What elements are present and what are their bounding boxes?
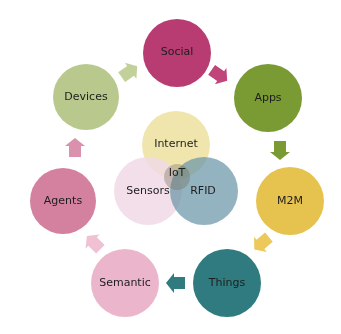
arrow-agents-to-devices-icon [65, 138, 85, 157]
arrow-social-to-apps-icon [206, 62, 233, 89]
iot-diagram: Internet Sensors RFID IoT Social Apps M2… [0, 0, 341, 334]
agents-label: Agents [44, 194, 83, 207]
social-label: Social [161, 45, 194, 58]
semantic-label: Semantic [99, 276, 151, 289]
arrow-m2m-to-things-icon [248, 230, 275, 258]
iot-label: IoT [169, 166, 186, 179]
m2m-label: M2M [277, 194, 303, 207]
internet-label: Internet [154, 137, 198, 150]
arrow-things-to-semantic-icon [166, 273, 185, 293]
things-label: Things [208, 276, 246, 289]
rfid-label: RFID [190, 184, 216, 197]
arrow-devices-to-social-icon [116, 58, 143, 85]
arrow-apps-to-m2m-icon [270, 141, 290, 160]
sensors-label: Sensors [126, 184, 170, 197]
devices-label: Devices [64, 90, 108, 103]
apps-label: Apps [254, 91, 281, 104]
arrow-semantic-to-agents-icon [80, 229, 108, 257]
